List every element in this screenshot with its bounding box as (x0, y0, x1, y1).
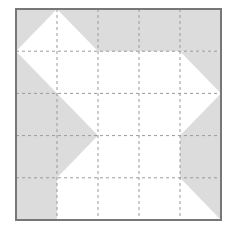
diagram-canvas (0, 0, 233, 232)
shaded-right-upper (180, 51, 221, 93)
shaded-regions (16, 9, 221, 220)
grid-diagram (0, 0, 233, 232)
shaded-right-lower (180, 93, 221, 220)
shaded-top-left-notch (16, 9, 57, 51)
